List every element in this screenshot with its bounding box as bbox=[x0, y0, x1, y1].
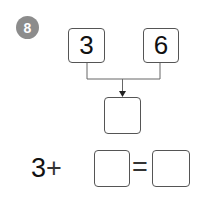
result-box[interactable] bbox=[152, 150, 190, 187]
equation-left-operand: 3 bbox=[31, 155, 46, 182]
sum-answer-box[interactable] bbox=[104, 97, 141, 134]
plus-sign: + bbox=[46, 155, 62, 182]
missing-operand-box[interactable] bbox=[94, 150, 130, 187]
equals-sign: = bbox=[132, 154, 148, 181]
